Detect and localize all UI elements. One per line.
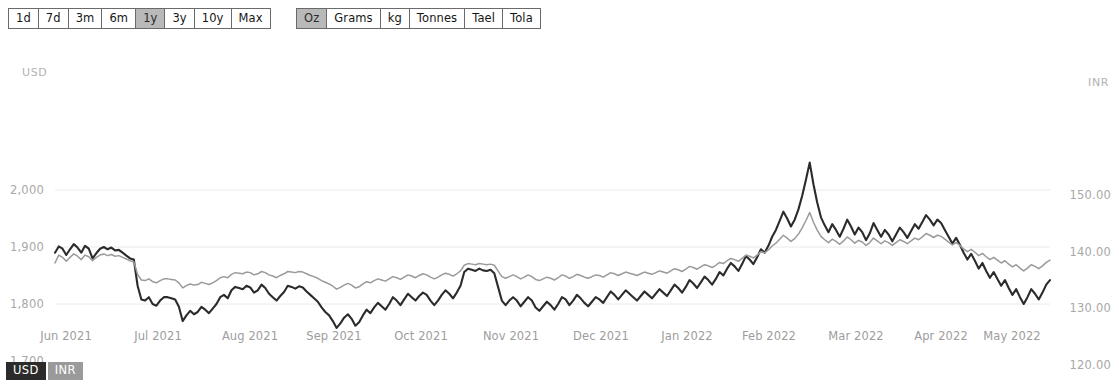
period-button-10y[interactable]: 10y xyxy=(195,9,232,28)
unit-button-oz[interactable]: Oz xyxy=(297,9,327,28)
x-axis-tick-label: Jan 2022 xyxy=(661,329,712,343)
right-axis-tick-label: 130.00 xyxy=(1070,301,1111,315)
period-button-max[interactable]: Max xyxy=(232,9,270,28)
x-axis-tick-label: Mar 2022 xyxy=(828,329,883,343)
unit-button-grams[interactable]: Grams xyxy=(327,9,380,28)
period-button-3m[interactable]: 3m xyxy=(69,9,103,28)
x-axis-tick-label: Dec 2021 xyxy=(573,329,629,343)
series-legend[interactable]: USD INR xyxy=(6,362,83,380)
period-button-1d[interactable]: 1d xyxy=(9,9,39,28)
x-axis-tick-label: Jun 2021 xyxy=(40,329,92,343)
chart-toolbar: 1d7d3m6m1y3y10yMax OzGramskgTonnesTaelTo… xyxy=(0,0,1119,40)
weight-unit-button-group[interactable]: OzGramskgTonnesTaelTola xyxy=(296,8,541,29)
x-axis-tick-label: Apr 2022 xyxy=(914,329,968,343)
chart-plot-area[interactable]: USD INR 1,7001,8001,9002,000 120.00130.0… xyxy=(0,40,1119,352)
x-axis-tick-label: Oct 2021 xyxy=(394,329,448,343)
x-axis-tick-label: Sep 2021 xyxy=(306,329,361,343)
gold-price-chart-widget: 1d7d3m6m1y3y10yMax OzGramskgTonnesTaelTo… xyxy=(0,0,1119,385)
unit-button-tael[interactable]: Tael xyxy=(465,9,503,28)
right-axis-tick-label: 140.00 xyxy=(1070,245,1111,259)
period-button-1y[interactable]: 1y xyxy=(136,9,165,28)
x-axis-tick-label: Aug 2021 xyxy=(222,329,278,343)
period-button-3y[interactable]: 3y xyxy=(165,9,194,28)
unit-button-tola[interactable]: Tola xyxy=(503,9,540,28)
price-line-chart xyxy=(0,40,1119,352)
unit-button-kg[interactable]: kg xyxy=(381,9,410,28)
period-range-button-group[interactable]: 1d7d3m6m1y3y10yMax xyxy=(8,8,271,29)
right-axis-tick-label: 150.00 xyxy=(1070,188,1111,202)
x-axis-tick-label: May 2022 xyxy=(983,329,1041,343)
x-axis-tick-label: Jul 2021 xyxy=(134,329,182,343)
x-axis-tick-label: Feb 2022 xyxy=(742,329,796,343)
right-axis-tick-label: 120.00 xyxy=(1070,358,1111,372)
x-axis-tick-label: Nov 2021 xyxy=(483,329,539,343)
left-axis-tick-label: 2,000 xyxy=(10,183,44,197)
left-axis-tick-label: 1,900 xyxy=(10,240,44,254)
legend-item-usd[interactable]: USD xyxy=(6,362,46,380)
unit-button-tonnes[interactable]: Tonnes xyxy=(410,9,465,28)
series-line-inr xyxy=(55,213,1050,290)
period-button-7d[interactable]: 7d xyxy=(39,9,69,28)
period-button-6m[interactable]: 6m xyxy=(102,9,136,28)
legend-item-inr[interactable]: INR xyxy=(48,362,83,380)
left-axis-tick-label: 1,800 xyxy=(10,297,44,311)
series-line-usd xyxy=(55,163,1050,328)
